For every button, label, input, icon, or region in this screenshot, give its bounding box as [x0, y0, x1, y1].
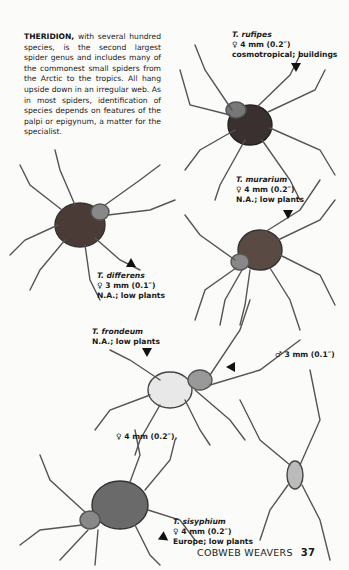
species-size: ♀ 4 mm (0.2″) — [173, 527, 253, 537]
species-name: T. frondeum — [92, 327, 160, 337]
arrow-down-icon — [291, 63, 301, 72]
label-rufipes: T. rufipes ♀ 4 mm (0.2″) cosmotropical; … — [232, 30, 337, 60]
genus-name: THERIDION, — [24, 32, 74, 41]
female-size-label: ♀ 4 mm (0.2″), — [116, 432, 177, 442]
species-name: T. sisyphium — [173, 517, 253, 527]
species-name: T. rufipes — [232, 30, 337, 40]
species-size: ♀ 4 mm (0.2″) — [232, 40, 337, 50]
label-frondeum: T. frondeum N.A.; low plants — [92, 327, 160, 347]
species-size: ♀ 3 mm (0.1″) — [97, 281, 165, 291]
arrow-down-icon — [142, 348, 152, 357]
page-footer: COBWEB WEAVERS37 — [197, 547, 315, 558]
label-differens: T. differens ♀ 3 mm (0.1″) N.A.; low pla… — [97, 271, 165, 301]
section-title: COBWEB WEAVERS — [197, 547, 293, 558]
species-range: Europe; low plants — [173, 537, 253, 547]
arrow-up-icon — [126, 258, 136, 267]
species-size: ♀ 4 mm (0.2″) — [236, 185, 304, 195]
intro-text: with several hundred species, is the sec… — [24, 32, 161, 136]
arrow-down-icon — [283, 210, 293, 219]
page-number: 37 — [301, 547, 316, 558]
arrow-left-icon — [226, 362, 235, 372]
species-range: N.A.; low plants — [92, 337, 160, 347]
species-range: cosmotropical; buildings — [232, 50, 337, 60]
species-range: N.A.; low plants — [97, 291, 165, 301]
male-size-label: ♂ 3 mm (0.1″) — [275, 350, 335, 360]
spider-sisyphium-illustration — [20, 430, 195, 565]
species-range: N.A.; low plants — [236, 195, 304, 205]
species-name: T. murarium — [236, 175, 304, 185]
label-sisyphium: T. sisyphium ♀ 4 mm (0.2″) Europe; low p… — [173, 517, 253, 547]
intro-paragraph: THERIDION, with several hundred species,… — [24, 32, 161, 138]
species-name: T. differens — [97, 271, 165, 281]
label-murarium: T. murarium ♀ 4 mm (0.2″) N.A.; low plan… — [236, 175, 304, 205]
